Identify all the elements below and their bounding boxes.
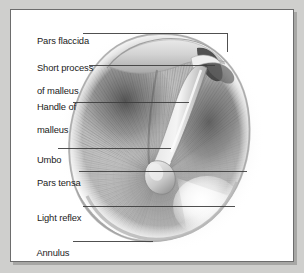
diagram-panel: Pars flaccida Short process of malleus H… [10,9,294,262]
label-pars-flaccida-text: Pars flaccida [37,35,89,46]
label-umbo-text: Umbo [37,154,62,165]
label-light-reflex-text: Light reflex [37,212,81,223]
label-handle-of-malleus: Handle of malleus [22,90,76,146]
label-pars-tensa-text: Pars tensa [37,177,81,188]
label-short-process-line1: Short process [37,62,93,73]
figure-root: Pars flaccida Short process of malleus H… [0,0,304,273]
label-light-reflex: Light reflex [22,201,81,235]
label-annulus: Annulus [22,236,69,262]
label-pars-tensa: Pars tensa [22,166,81,200]
label-handle-line2: malleus [37,124,68,135]
label-handle-line1: Handle of [37,101,76,112]
label-annulus-text: Annulus [36,247,69,258]
